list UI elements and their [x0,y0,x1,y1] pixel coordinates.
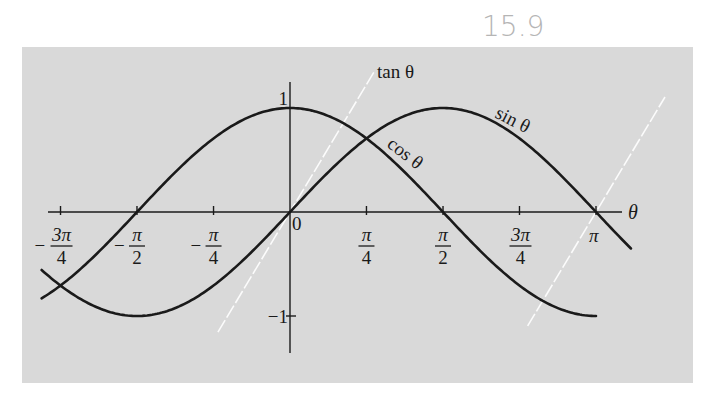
svg-text:4: 4 [57,247,67,268]
svg-text:4: 4 [209,247,219,268]
svg-text:3π: 3π [510,224,531,245]
svg-text:π: π [209,224,219,245]
svg-text:0: 0 [292,213,302,234]
plot-panel [22,47,693,383]
y-tick-label: −1 [268,306,288,327]
svg-text:π: π [589,225,599,246]
svg-text:2: 2 [438,247,448,268]
x-axis-label: θ [628,201,638,223]
svg-text:4: 4 [516,247,526,268]
svg-text:4: 4 [362,247,372,268]
svg-text:3π: 3π [51,224,72,245]
svg-text:2: 2 [132,247,142,268]
svg-text:−: − [114,235,125,256]
svg-text:π: π [438,224,448,245]
y-tick-label: 1 [279,88,289,109]
chart-figure: 15.9 3π4−π2−π4−0π4π23π4π 1−1 θ tan θ sin… [0,0,715,407]
x-tick-label: π [589,225,599,246]
tan-label: tan θ [377,61,414,82]
svg-text:π: π [362,224,372,245]
x-tick-label: 0 [292,213,302,234]
svg-text:−: − [191,235,202,256]
handwritten-annotation: 15.9 [482,10,544,43]
svg-text:π: π [132,224,142,245]
svg-text:−: − [35,235,46,256]
